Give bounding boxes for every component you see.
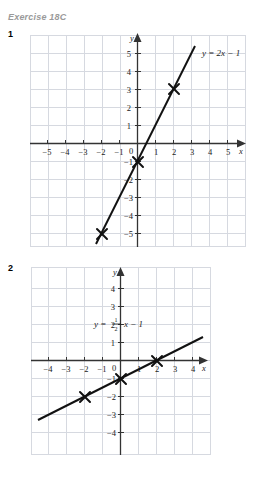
question-number-1: 1 xyxy=(8,29,13,39)
graph-2-ytick-1: 1 xyxy=(111,338,115,348)
graph-2-ytick--4: −4 xyxy=(107,428,117,438)
graph-1-ytick-5: 5 xyxy=(127,49,131,59)
graph-1-origin-label: 0 xyxy=(129,146,133,156)
graph-1-equation-label: y = 2x − 1 xyxy=(201,48,240,58)
graph-1-svg: x y −5 −4 −3 −2 −1 1 2 3 xyxy=(30,33,251,249)
graph-1-xtick-1: 1 xyxy=(154,147,158,157)
graph-2-xtick-2: 2 xyxy=(155,364,159,374)
graph-1-ytick--5: −5 xyxy=(124,229,133,239)
graph-1-background xyxy=(30,33,251,249)
graph-2-ytick-3: 3 xyxy=(111,302,115,312)
graph-1: x y −5 −4 −3 −2 −1 1 2 3 xyxy=(30,33,251,249)
graph-1-x-axis-label: x xyxy=(238,146,243,156)
graph-2-equation-lhs: y = xyxy=(93,319,106,329)
graph-2-ytick--2: −2 xyxy=(107,392,116,402)
graph-2-ytick--3: −3 xyxy=(107,410,116,420)
graph-1-ytick-3: 3 xyxy=(127,85,131,95)
graph-2-xtick--2: −2 xyxy=(79,364,88,374)
question-number-2: 2 xyxy=(8,263,13,273)
graph-1-xtick--5: −5 xyxy=(42,147,51,157)
graph-1-ytick--4: −4 xyxy=(124,211,134,221)
graph-1-xtick--4: −4 xyxy=(60,147,70,157)
worksheet-page: Exercise 18C 1 xyxy=(0,0,262,478)
graph-1-xtick-2: 2 xyxy=(172,147,176,157)
graph-2-x-axis-label: x xyxy=(201,363,206,373)
graph-1-xtick-3: 3 xyxy=(190,147,194,157)
graph-1-xtick--1: −1 xyxy=(114,147,123,157)
graph-2-xtick--4: −4 xyxy=(43,364,53,374)
graph-1-xtick-5: 5 xyxy=(226,147,230,157)
graph-1-xtick--3: −3 xyxy=(78,147,87,157)
graph-2-origin-label: 0 xyxy=(112,363,116,373)
graph-1-ytick-1: 1 xyxy=(127,121,131,131)
graph-2-xtick-3: 3 xyxy=(173,364,177,374)
graph-1-xtick--2: −2 xyxy=(96,147,105,157)
graph-2-equation-numerator: 1 xyxy=(115,317,118,323)
graph-1-ytick--3: −3 xyxy=(124,193,133,203)
graph-2-equation-denominator: 2 xyxy=(115,326,118,332)
exercise-header: Exercise 18C xyxy=(8,12,66,22)
graph-1-ytick-2: 2 xyxy=(127,103,131,113)
graph-2-y-axis-label: y xyxy=(112,267,117,277)
graph-1-ytick--1: −1 xyxy=(124,157,133,167)
graph-2-xtick--1: −1 xyxy=(97,364,106,374)
graph-1-y-axis-label: y xyxy=(129,33,134,43)
graph-2-svg: x y −4 −3 −2 −1 1 2 3 4 0 xyxy=(31,265,213,457)
graph-2: x y −4 −3 −2 −1 1 2 3 4 0 xyxy=(31,265,213,457)
graph-2-equation-tail: x − 1 xyxy=(123,319,143,329)
graph-2-xtick--3: −3 xyxy=(61,364,70,374)
